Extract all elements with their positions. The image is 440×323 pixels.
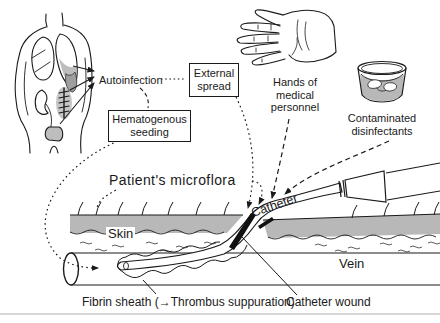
dermis-texture <box>80 242 440 252</box>
catheter-label: Catheter <box>249 191 299 220</box>
diagram-artwork: Catheter <box>0 0 440 323</box>
contamination-routes <box>97 79 389 208</box>
hands-of-medical-personnel-label: Hands of medical personnel <box>263 76 327 114</box>
contaminated-disinfectants-label: Contaminated disinfectants <box>347 112 417 137</box>
autoinfection-label: Autoinfection <box>99 74 163 87</box>
catheter-hub <box>339 163 440 202</box>
fibrin-leader-line <box>143 280 156 294</box>
hand-illustration <box>237 10 336 65</box>
catheter-wound-label: Catheter wound <box>286 296 371 310</box>
vein-label: Vein <box>339 257 364 272</box>
torso-organs-illustration <box>15 13 92 153</box>
skin-label: Skin <box>106 227 135 242</box>
catheter-wound-leader-line <box>242 237 297 295</box>
fibrin-sheath-label: Fibrin sheath (→Thrombus suppuration) <box>82 296 295 310</box>
external-spread-box: External spread <box>189 63 239 97</box>
patients-microflora-label: Patient's microflora <box>109 172 236 188</box>
disinfectant-container-icon <box>358 62 406 103</box>
hematogenous-seeding-box: Hematogenous seeding <box>108 110 191 142</box>
infection-sources-diagram: Catheter <box>0 0 440 323</box>
